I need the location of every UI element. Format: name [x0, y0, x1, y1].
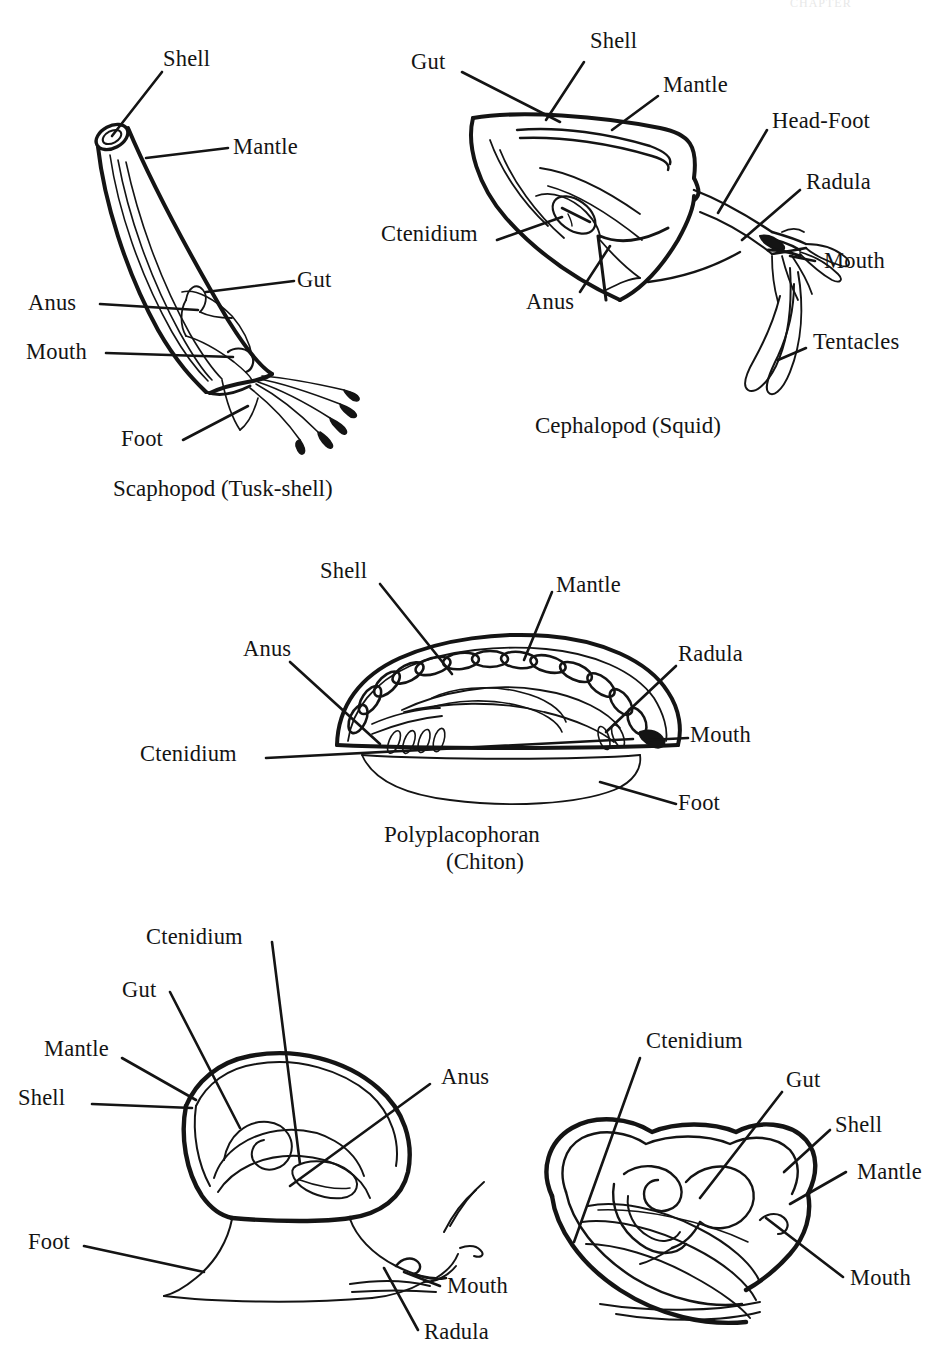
- label-cephalopod-gut: Gut: [411, 50, 445, 74]
- label-cephalopod-mantle: Mantle: [663, 73, 728, 97]
- figure-artwork: [0, 0, 949, 1355]
- label-bivalve-shell: Shell: [835, 1113, 882, 1137]
- label-bivalve-ctenidium: Ctenidium: [646, 1029, 743, 1053]
- label-chiton-radula: Radula: [678, 642, 743, 666]
- label-bivalve-mouth: Mouth: [850, 1266, 911, 1290]
- label-cephalopod-radula: Radula: [806, 170, 871, 194]
- label-gastropod-radula: Radula: [424, 1320, 489, 1344]
- label-gastropod-foot: Foot: [28, 1230, 70, 1254]
- label-scaphopod-mantle: Mantle: [233, 135, 298, 159]
- scaphopod-drawing: [92, 72, 359, 454]
- label-cephalopod-anus: Anus: [526, 290, 574, 314]
- label-scaphopod-shell: Shell: [163, 47, 210, 71]
- label-chiton-foot: Foot: [678, 791, 720, 815]
- label-cephalopod-ctenidium: Ctenidium: [381, 222, 478, 246]
- label-bivalve-mantle: Mantle: [857, 1160, 922, 1184]
- label-chiton-shell: Shell: [320, 559, 367, 583]
- label-cephalopod-tentacles: Tentacles: [813, 330, 899, 354]
- caption-scaphopod: Scaphopod (Tusk-shell): [113, 476, 333, 502]
- caption-cephalopod: Cephalopod (Squid): [535, 413, 721, 439]
- label-chiton-mantle: Mantle: [556, 573, 621, 597]
- label-gastropod-anus: Anus: [441, 1065, 489, 1089]
- label-gastropod-ctenidium: Ctenidium: [146, 925, 243, 949]
- label-cephalopod-shell: Shell: [590, 29, 637, 53]
- bivalve-drawing: [546, 1058, 846, 1323]
- polyplacophoran-drawing: [266, 584, 688, 804]
- label-gastropod-gut: Gut: [122, 978, 156, 1002]
- page-header-fragment: CHAPTER: [790, 0, 852, 11]
- label-chiton-anus: Anus: [243, 637, 291, 661]
- label-cephalopod-mouth: Mouth: [824, 249, 885, 273]
- label-chiton-ctenidium: Ctenidium: [140, 742, 237, 766]
- label-chiton-mouth: Mouth: [690, 723, 751, 747]
- label-cephalopod-head-foot: Head-Foot: [772, 109, 870, 133]
- label-gastropod-shell: Shell: [18, 1086, 65, 1110]
- label-scaphopod-mouth: Mouth: [26, 340, 87, 364]
- label-scaphopod-anus: Anus: [28, 291, 76, 315]
- label-scaphopod-gut: Gut: [297, 268, 331, 292]
- label-gastropod-mouth: Mouth: [447, 1274, 508, 1298]
- caption-chiton-line1: Polyplacophoran: [384, 822, 540, 848]
- label-bivalve-gut: Gut: [786, 1068, 820, 1092]
- caption-chiton-line2: (Chiton): [446, 849, 524, 875]
- mollusc-body-plans-figure: CHAPTER Shell Mantle Gut Anus Mouth Foot…: [0, 0, 949, 1355]
- label-scaphopod-foot: Foot: [121, 427, 163, 451]
- label-gastropod-mantle: Mantle: [44, 1037, 109, 1061]
